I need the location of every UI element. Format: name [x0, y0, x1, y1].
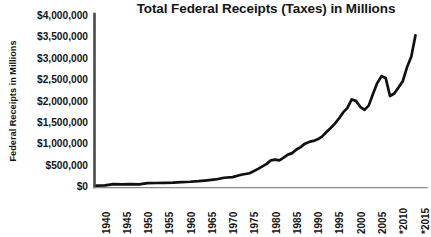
data-series-line	[97, 35, 416, 185]
